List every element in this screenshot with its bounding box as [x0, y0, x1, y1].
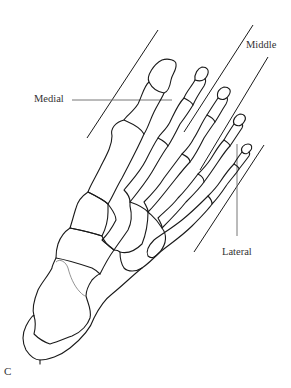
fifth-middle-phalanx	[234, 152, 250, 169]
third-middle-phalanx	[207, 98, 228, 122]
ray-guide-lines	[87, 25, 268, 252]
second-middle-phalanx	[184, 79, 206, 105]
tarsal-bones	[23, 192, 166, 364]
medial-label: Medial	[34, 93, 64, 104]
hallux-proximal-phalanx	[124, 82, 164, 134]
third-proximal-phalanx	[182, 115, 215, 162]
second-proximal-phalanx	[158, 98, 193, 146]
fourth-distal-phalanx	[233, 114, 245, 126]
third-metatarsal	[144, 154, 190, 212]
first-metatarsal	[88, 120, 144, 204]
middle-guide-line-lower	[200, 57, 268, 170]
foot-skeleton-drawing	[0, 0, 291, 388]
fourth-middle-phalanx	[224, 124, 243, 146]
foot-skeleton-figure: Medial Middle Lateral C	[0, 0, 291, 388]
fifth-toe-bones	[147, 144, 251, 258]
talus	[33, 258, 100, 344]
second-metatarsal	[124, 138, 168, 202]
lateral-guide-line	[194, 145, 264, 252]
fourth-toe-bones	[158, 114, 245, 228]
fifth-distal-phalanx	[241, 144, 251, 154]
fourth-metatarsal	[158, 174, 204, 228]
navicular	[56, 228, 114, 274]
calcaneus	[23, 268, 142, 360]
panel-letter: C	[4, 365, 11, 377]
middle-label: Middle	[246, 39, 276, 50]
hallux-distal-phalanx	[148, 59, 176, 93]
talus-suture-line	[56, 260, 86, 296]
lateral-label: Lateral	[222, 246, 252, 257]
fifth-metatarsal	[147, 196, 212, 258]
third-distal-phalanx	[217, 87, 230, 99]
second-distal-phalanx	[195, 67, 208, 81]
